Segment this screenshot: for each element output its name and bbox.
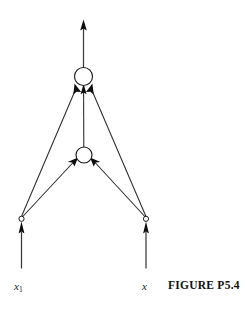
input-left-junction-node[interactable]	[19, 216, 24, 221]
input-right-junction-node[interactable]	[143, 216, 148, 221]
hidden-node[interactable]	[76, 147, 92, 163]
input-left-label-subscript: 1	[19, 285, 23, 294]
edge-input-right-to-hidden-node	[93, 161, 145, 218]
input-left-label: x1	[14, 281, 23, 292]
input-right-label: x	[142, 281, 147, 292]
figure-container: x1 x FIGURE P5.4	[0, 0, 245, 312]
edge-input-left-to-output-node	[22, 88, 77, 217]
input-right-arrowhead-icon	[143, 222, 149, 234]
edge-input-right-to-output-node	[91, 88, 146, 217]
figure-caption: FIGURE P5.4	[168, 280, 240, 292]
output-node[interactable]	[75, 68, 93, 86]
network-diagram	[0, 0, 245, 312]
edge-input-left-to-hidden-node	[22, 161, 75, 218]
input-left-arrowhead-icon	[19, 222, 25, 234]
input-right-label-base: x	[142, 280, 147, 292]
